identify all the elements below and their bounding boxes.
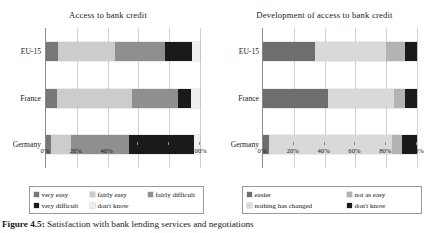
x-tick-label: 80% [162,147,174,154]
category-label: EU-15 [0,47,41,56]
x-tick-label: 80% [379,147,391,154]
bar-segment [405,89,417,108]
x-tick-mark [262,142,263,145]
stacked-bar [263,89,417,108]
legend-item-dont-know: don't know [90,202,148,210]
figure-container: Access to bank credit 0%20%40%60%80%100%… [0,0,433,233]
x-tick-label: 60% [348,147,360,154]
x-tick-mark [107,142,108,145]
x-tick-label: 100% [408,147,423,154]
legend-label: don't know [98,202,129,210]
category-label: France [199,94,259,103]
x-tick-mark [324,142,325,145]
bar-segment [165,42,193,61]
legend-item-easier: easier [247,191,347,199]
legend-swatch-icon [347,203,352,208]
bar-segment [57,89,132,108]
chart-title: Access to bank credit [0,10,216,20]
chart-panel-development-of-access-to-bank-credit: Development of access to bank credit 0%2… [216,0,433,216]
legend-swatch-icon [347,192,352,197]
bar-segment [394,89,405,108]
x-tick-label: 40% [101,147,113,154]
x-tick-mark [137,142,138,145]
legend-row: very difficult don't know [34,200,200,211]
legend-label: nothing has changed [255,202,313,210]
x-tick-label: 20% [70,147,82,154]
legend-item-dont-know: don't know [347,202,386,210]
legend-swatch-icon [148,192,153,197]
figure-caption-text: Satisfaction with bank lending services … [47,219,254,229]
legend-item-nothing-has-changed: nothing has changed [247,202,347,210]
category-label: EU-15 [199,47,259,56]
legend-swatch-icon [34,192,39,197]
legend-row: nothing has changed don't know [247,200,418,211]
bar-segment [46,89,57,108]
figure-caption-label: Figure 4.5: [2,219,45,229]
bar-segment [405,42,417,61]
bar-segment [115,42,164,61]
legend-label: fairly difficult [156,191,195,199]
x-tick-mark [354,142,355,145]
stacked-bar [46,42,200,61]
figure-caption: Figure 4.5: Satisfaction with bank lendi… [2,219,432,230]
bar-segment [132,89,178,108]
legend-row: very easy fairly easy fairly difficult [34,189,200,200]
legend-item-fairly-difficult: fairly difficult [148,191,195,199]
category-label: Germany [0,140,41,149]
x-tick-mark [385,142,386,145]
legend-item-not-as-easy: not as easy [347,191,385,199]
legend-swatch-icon [247,203,252,208]
bar-segment [386,42,404,61]
category-label: Germany [199,140,259,149]
legend-label: fairly easy [98,191,127,199]
bar-segment [315,42,386,61]
bar-segment [263,42,315,61]
legend-left: very easy fairly easy fairly difficult v… [29,186,204,214]
legend-swatch-icon [90,203,95,208]
x-tick-label: 60% [131,147,143,154]
x-tick-label: 0% [41,147,50,154]
x-tick-mark [168,142,169,145]
bar-segment [58,42,115,61]
category-label: France [0,94,41,103]
legend-row: easier not as easy [247,189,418,200]
x-tick-mark [76,142,77,145]
bar-segment [46,42,58,61]
legend-swatch-icon [247,192,252,197]
legend-item-very-easy: very easy [34,191,90,199]
legend-item-very-difficult: very difficult [34,202,90,210]
stacked-bar [263,42,417,61]
x-tick-mark [416,142,417,145]
legend-label: easier [255,191,271,199]
stacked-bar [46,89,200,108]
bar-segment [263,89,328,108]
bar-segment [328,89,394,108]
legend-label: very difficult [42,202,79,210]
legend-right: easier not as easy nothing has changed d… [242,186,422,214]
x-tick-mark [293,142,294,145]
legend-swatch-icon [90,192,95,197]
legend-label: don't know [355,202,386,210]
bar-segment [178,89,190,108]
legend-label: not as easy [355,191,386,199]
chart-panel-access-to-bank-credit: Access to bank credit 0%20%40%60%80%100%… [0,0,216,216]
legend-item-fairly-easy: fairly easy [90,191,148,199]
x-tick-label: 40% [318,147,330,154]
legend-label: very easy [42,191,69,199]
chart-title: Development of access to bank credit [216,10,433,20]
legend-swatch-icon [34,203,39,208]
x-tick-mark [45,142,46,145]
x-tick-label: 20% [287,147,299,154]
